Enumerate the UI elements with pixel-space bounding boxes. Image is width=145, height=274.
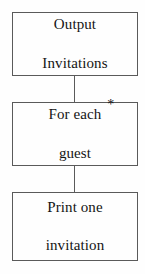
node-label-line-1-text: For each (49, 106, 102, 122)
node-label-line-1: For each* (49, 105, 102, 124)
flowchart-node-for-each-guest[interactable]: For each* guest (12, 102, 138, 166)
flowchart-node-output-invitations[interactable]: Output Invitations (12, 12, 138, 76)
node-label: For each* guest (45, 86, 106, 182)
node-label-line-1: Print one (46, 198, 105, 217)
node-label-line-2: invitation (46, 236, 105, 255)
node-label-line-1: Output (42, 15, 107, 34)
flowchart-node-print-one-invitation[interactable]: Print one invitation (12, 192, 138, 261)
node-label-line-2: guest (49, 144, 102, 163)
node-label-line-2: Invitations (42, 54, 107, 73)
loop-asterisk-icon: * (107, 98, 114, 112)
flowchart-diagram: Output Invitations For each* guest Print… (0, 0, 145, 274)
node-label: Print one invitation (42, 179, 109, 274)
